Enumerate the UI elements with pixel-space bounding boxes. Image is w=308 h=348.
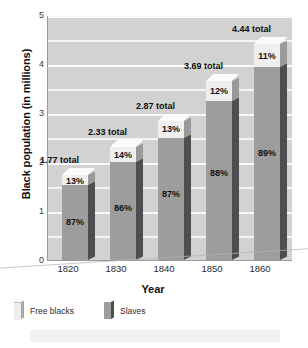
x-axis-title: Year (118, 283, 188, 295)
bar-total-label-1830: 2.33 total (88, 127, 127, 137)
x-tick-1820: 1820 (48, 263, 88, 274)
x-tick-1850: 1850 (192, 263, 232, 274)
y-tick-1: 1 (30, 206, 44, 216)
bar-label-slave-pct-1820: 87% (62, 217, 88, 227)
bar-1830: 14%86% (110, 146, 136, 260)
bar-segment-slaves-1820: 87% (62, 185, 88, 260)
y-axis-title: Black population (in millions) (20, 44, 32, 204)
bar-segment-free-blacks-1820: 13% (62, 174, 88, 185)
y-tick-4: 4 (30, 59, 44, 69)
bar-total-label-1820: 1.77 total (40, 155, 79, 165)
bar-total-label-1850: 3.69 total (184, 61, 223, 71)
bar-1860: 11%89% (254, 43, 280, 260)
chart-figure: 5 4 3 2 1 0 Black population (in million… (0, 0, 308, 348)
bar-label-free-pct-1860: 11% (254, 51, 280, 61)
bar-label-slave-pct-1850: 88% (206, 168, 232, 178)
bar-label-slave-pct-1860: 89% (254, 148, 280, 158)
x-axis-line (47, 260, 292, 261)
x-tick-1860: 1860 (240, 263, 280, 274)
bar-segment-slaves-1860: 89% (254, 67, 280, 260)
bar-side-slaves-1850 (232, 98, 239, 260)
bar-segment-free-blacks-1830: 14% (110, 146, 136, 162)
bar-1850: 12%88% (206, 80, 232, 260)
legend-label-free-blacks: Free blacks (30, 306, 74, 316)
chart-legend: Free blacks Slaves (14, 300, 214, 326)
y-axis-line (47, 16, 48, 261)
x-tick-1830: 1830 (96, 263, 136, 274)
y-tick-5: 5 (30, 10, 44, 20)
bar-segment-slaves-1830: 86% (110, 162, 136, 260)
scan-artifact-band (30, 330, 280, 342)
y-tick-0: 0 (30, 255, 44, 265)
gridline-5-0 (48, 16, 292, 18)
bar-label-free-pct-1820: 13% (62, 176, 88, 186)
bar-segment-slaves-1840: 87% (158, 138, 184, 260)
bar-side-slaves-1860 (280, 64, 287, 260)
bar-label-slave-pct-1840: 87% (158, 189, 184, 199)
bar-total-label-1840: 2.87 total (136, 101, 175, 111)
bar-segment-free-blacks-1860: 11% (254, 43, 280, 67)
legend-label-slaves: Slaves (120, 306, 146, 316)
bar-label-free-pct-1850: 12% (206, 86, 232, 96)
x-tick-1840: 1840 (144, 263, 184, 274)
bar-side-slaves-1820 (88, 181, 95, 260)
bar-label-free-pct-1840: 13% (158, 124, 184, 134)
legend-swatch-free-blacks-icon (14, 302, 21, 319)
bar-total-label-1860: 4.44 total (232, 24, 271, 34)
bar-1820: 13%87% (62, 174, 88, 260)
x-axis-ticks: 1820 1830 1840 1850 1860 (48, 263, 292, 279)
bar-segment-slaves-1850: 88% (206, 101, 232, 260)
bar-1840: 13%87% (158, 120, 184, 260)
bar-segment-free-blacks-1840: 13% (158, 120, 184, 138)
bar-side-slaves-1830 (136, 159, 143, 260)
bar-label-slave-pct-1830: 86% (110, 203, 136, 213)
legend-swatch-slaves-icon (104, 302, 111, 319)
bar-side-slaves-1840 (184, 135, 191, 260)
bar-label-free-pct-1830: 14% (110, 150, 136, 160)
y-tick-3: 3 (30, 108, 44, 118)
bar-segment-free-blacks-1850: 12% (206, 80, 232, 101)
